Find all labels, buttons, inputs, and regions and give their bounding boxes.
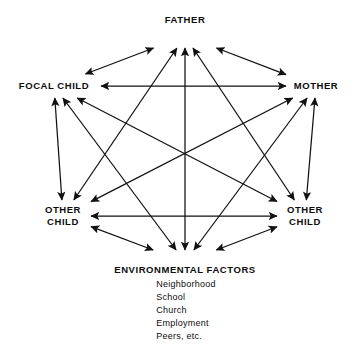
node-other-child-right[interactable]: OTHER CHILD: [286, 204, 324, 228]
environmental-factor-item: Church: [156, 304, 255, 317]
edge-other_child_left-environment: [91, 227, 153, 250]
edge-other_child_left-father: [74, 48, 177, 200]
edge-mother-other_child_right: [306, 98, 315, 200]
node-focal-child[interactable]: FOCAL CHILD: [18, 80, 90, 92]
environmental-factor-item: Employment: [156, 317, 255, 330]
environmental-factors-list: NeighborhoodSchoolChurchEmploymentPeers,…: [114, 278, 255, 343]
node-focal-child-label: FOCAL CHILD: [19, 80, 89, 91]
edges-group: [55, 48, 315, 250]
edge-mother-other_child_left: [91, 98, 293, 202]
node-other-child-left-label-line2: CHILD: [45, 216, 81, 228]
edge-mother-father: [216, 48, 286, 75]
environmental-factor-item: School: [156, 291, 255, 304]
environmental-factor-item: Peers, etc.: [156, 330, 255, 343]
node-environmental-factors-label: ENVIRONMENTAL FACTORS: [114, 264, 255, 275]
edge-other_child_right-environment: [216, 227, 277, 250]
node-father[interactable]: FATHER: [164, 14, 207, 26]
edge-focal_child-other_child_right: [77, 98, 277, 202]
edge-other_child_right-father: [193, 48, 294, 200]
environmental-factor-item: Neighborhood: [156, 278, 255, 291]
node-other-child-right-label-line2: CHILD: [287, 216, 323, 228]
node-mother-label: MOTHER: [294, 80, 338, 91]
node-father-label: FATHER: [165, 14, 206, 25]
node-other-child-right-label-line1: OTHER: [287, 204, 323, 216]
family-systems-diagram: FATHER FOCAL CHILD MOTHER OTHER CHILD OT…: [0, 0, 358, 363]
edge-focal_child-father: [85, 48, 153, 74]
node-environmental-factors[interactable]: ENVIRONMENTAL FACTORS NeighborhoodSchool…: [112, 264, 257, 343]
node-other-child-left[interactable]: OTHER CHILD: [44, 204, 82, 228]
node-mother[interactable]: MOTHER: [293, 80, 339, 92]
node-other-child-left-label-line1: OTHER: [45, 204, 81, 216]
edge-focal_child-other_child_left: [55, 98, 62, 200]
